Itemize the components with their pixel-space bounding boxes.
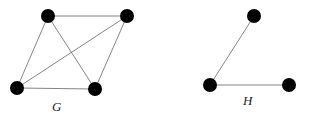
graph-g-label: G [52,99,62,114]
edge-g2-g3 [17,16,127,88]
graph-g: G [10,9,134,114]
graph-h-nodes [203,9,296,92]
edge-h1-h2 [210,16,254,85]
graph-diagram: G H [0,0,309,117]
graph-h-label: H [242,93,253,108]
edge-g3-g4 [17,88,95,89]
vertex-h2 [203,78,217,92]
vertex-g4 [88,82,102,96]
graph-h: H [203,9,296,108]
edge-g1-g3 [17,16,48,88]
vertex-h3 [282,78,296,92]
vertex-g3 [10,81,24,95]
vertex-g2 [120,9,134,23]
vertex-h1 [247,9,261,23]
vertex-g1 [41,9,55,23]
graph-h-edges [210,16,289,85]
graph-g-edges [17,16,127,89]
